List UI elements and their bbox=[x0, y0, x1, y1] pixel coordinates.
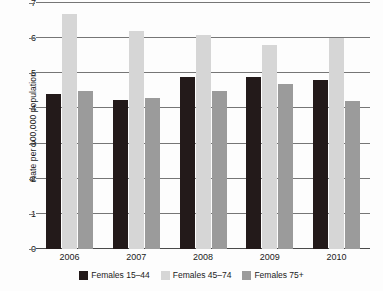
bar-group-2007 bbox=[113, 3, 160, 249]
y-tick-mark bbox=[29, 3, 35, 4]
bar bbox=[278, 84, 293, 249]
y-tick-mark bbox=[29, 179, 35, 180]
bar bbox=[212, 91, 227, 249]
bar bbox=[180, 77, 195, 249]
bar bbox=[78, 91, 93, 249]
y-axis: 01234567 bbox=[0, 0, 36, 291]
bar bbox=[329, 38, 344, 249]
bar bbox=[262, 45, 277, 249]
legend-swatch-icon bbox=[242, 271, 251, 280]
legend-swatch-icon bbox=[79, 271, 88, 280]
bar bbox=[145, 98, 160, 249]
legend-item-1[interactable]: Females 45–74 bbox=[161, 270, 232, 280]
bar bbox=[246, 77, 261, 249]
bar-group-2009 bbox=[246, 3, 293, 249]
bar-group-2010 bbox=[313, 3, 360, 249]
bar bbox=[129, 31, 144, 249]
bar bbox=[345, 101, 360, 249]
bar-group-2006 bbox=[46, 3, 93, 249]
legend-label: Females 45–74 bbox=[173, 270, 232, 280]
legend-label: Females 75+ bbox=[254, 270, 303, 280]
x-tick-label: 2009 bbox=[240, 252, 300, 262]
y-tick-mark bbox=[29, 108, 35, 109]
y-tick-mark bbox=[29, 38, 35, 39]
legend-item-2[interactable]: Females 75+ bbox=[242, 270, 303, 280]
x-axis-labels: 20062007200820092010 bbox=[36, 252, 370, 266]
x-tick-label: 2006 bbox=[39, 252, 99, 262]
legend-label: Females 15–44 bbox=[91, 270, 150, 280]
legend-swatch-icon bbox=[161, 271, 170, 280]
chart-legend: Females 15–44Females 45–74Females 75+ bbox=[0, 270, 383, 280]
bar bbox=[196, 35, 211, 249]
y-tick-mark bbox=[29, 144, 35, 145]
x-tick-label: 2007 bbox=[106, 252, 166, 262]
bar bbox=[62, 14, 77, 249]
y-tick-mark bbox=[29, 249, 35, 250]
x-tick-label: 2010 bbox=[307, 252, 367, 262]
bar-group-2008 bbox=[180, 3, 227, 249]
bar bbox=[46, 94, 61, 249]
y-tick-label: 7 bbox=[14, 0, 36, 8]
x-tick-label: 2008 bbox=[173, 252, 233, 262]
bar bbox=[113, 100, 128, 249]
legend-item-0[interactable]: Females 15–44 bbox=[79, 270, 150, 280]
bar-chart: Rate per 100,000 population 01234567 200… bbox=[0, 0, 383, 291]
y-tick-mark bbox=[29, 73, 35, 74]
bars-layer bbox=[36, 3, 370, 249]
y-tick-mark bbox=[29, 214, 35, 215]
bar bbox=[313, 80, 328, 249]
